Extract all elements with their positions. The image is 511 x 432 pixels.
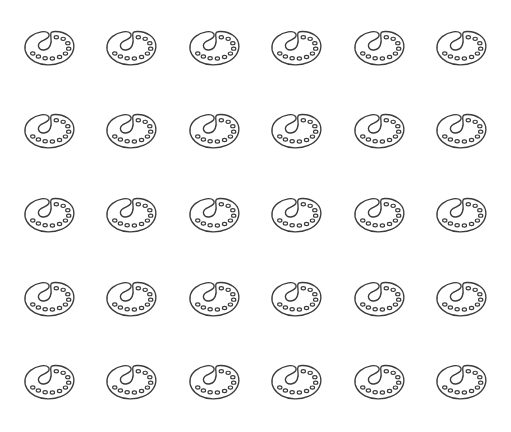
palette-icon[interactable]: artist palette — [268, 273, 325, 325]
palette-icon[interactable]: artist palette — [433, 273, 490, 325]
grid-cell: artist palette — [8, 257, 91, 341]
grid-cell: artist palette — [91, 6, 174, 90]
palette-icon[interactable]: artist palette — [351, 22, 408, 74]
palette-icon[interactable]: artist palette — [186, 356, 243, 408]
grid-cell: artist palette — [8, 340, 91, 424]
grid-cell: artist palette — [338, 257, 421, 341]
palette-icon-grid: artist paletteartist paletteartist palet… — [0, 0, 511, 432]
palette-icon[interactable]: artist palette — [21, 356, 78, 408]
palette-icon[interactable]: artist palette — [268, 22, 325, 74]
grid-cell: artist palette — [256, 257, 339, 341]
grid-cell: artist palette — [256, 173, 339, 257]
grid-cell: artist palette — [421, 90, 504, 174]
palette-icon[interactable]: artist palette — [433, 105, 490, 157]
grid-cell: artist palette — [256, 90, 339, 174]
grid-cell: artist palette — [173, 90, 256, 174]
grid-cell: artist palette — [338, 173, 421, 257]
palette-icon[interactable]: artist palette — [21, 189, 78, 241]
grid-cell: artist palette — [8, 6, 91, 90]
grid-cell: artist palette — [173, 340, 256, 424]
grid-cell: artist palette — [8, 173, 91, 257]
grid-cell: artist palette — [421, 340, 504, 424]
grid-cell: artist palette — [173, 173, 256, 257]
grid-cell: artist palette — [173, 6, 256, 90]
palette-icon[interactable]: artist palette — [351, 105, 408, 157]
grid-cell: artist palette — [91, 90, 174, 174]
palette-icon[interactable]: artist palette — [103, 189, 160, 241]
palette-icon[interactable]: artist palette — [351, 273, 408, 325]
grid-cell: artist palette — [91, 257, 174, 341]
palette-icon[interactable]: artist palette — [433, 356, 490, 408]
palette-icon[interactable]: artist palette — [268, 356, 325, 408]
palette-icon[interactable]: artist palette — [186, 189, 243, 241]
palette-icon[interactable]: artist palette — [103, 22, 160, 74]
palette-icon[interactable]: artist palette — [186, 105, 243, 157]
palette-icon[interactable]: artist palette — [103, 273, 160, 325]
palette-icon[interactable]: artist palette — [433, 22, 490, 74]
palette-icon[interactable]: artist palette — [351, 356, 408, 408]
grid-cell: artist palette — [338, 90, 421, 174]
palette-icon[interactable]: artist palette — [21, 273, 78, 325]
palette-icon[interactable]: artist palette — [103, 105, 160, 157]
grid-cell: artist palette — [421, 6, 504, 90]
grid-cell: artist palette — [256, 6, 339, 90]
palette-icon[interactable]: artist palette — [21, 105, 78, 157]
palette-icon[interactable]: artist palette — [351, 189, 408, 241]
palette-icon[interactable]: artist palette — [186, 273, 243, 325]
grid-cell: artist palette — [338, 340, 421, 424]
grid-cell: artist palette — [8, 90, 91, 174]
grid-cell: artist palette — [91, 173, 174, 257]
icon-grid-canvas: artist paletteartist paletteartist palet… — [0, 0, 511, 432]
grid-cell: artist palette — [338, 6, 421, 90]
grid-cell: artist palette — [421, 173, 504, 257]
grid-cell: artist palette — [421, 257, 504, 341]
palette-icon[interactable]: artist palette — [433, 189, 490, 241]
palette-icon[interactable]: artist palette — [268, 189, 325, 241]
grid-cell: artist palette — [256, 340, 339, 424]
palette-icon[interactable]: artist palette — [103, 356, 160, 408]
grid-cell: artist palette — [173, 257, 256, 341]
palette-icon[interactable]: artist palette — [268, 105, 325, 157]
grid-cell: artist palette — [91, 340, 174, 424]
palette-icon[interactable]: artist palette — [21, 22, 78, 74]
palette-icon[interactable]: artist palette — [186, 22, 243, 74]
